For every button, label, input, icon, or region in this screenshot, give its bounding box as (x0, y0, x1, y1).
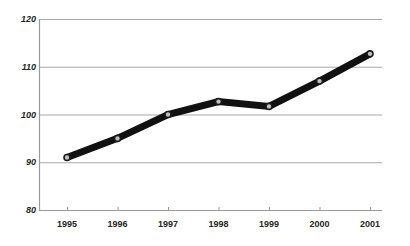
line-chart: 8090100110120 19951996199719981999200020… (0, 0, 410, 246)
x-tick-label-2000: 2000 (297, 219, 343, 230)
x-tick-label-1997: 1997 (145, 219, 191, 230)
x-tick-label-1998: 1998 (196, 219, 242, 230)
x-tick-label-1995: 1995 (44, 219, 90, 230)
x-tick-label-1999: 1999 (246, 219, 292, 230)
x-tick-label-2001: 2001 (347, 219, 393, 230)
x-tick-label-1996: 1996 (95, 219, 141, 230)
x-axis-tick-labels: 1995199619971998199920002001 (0, 0, 410, 246)
